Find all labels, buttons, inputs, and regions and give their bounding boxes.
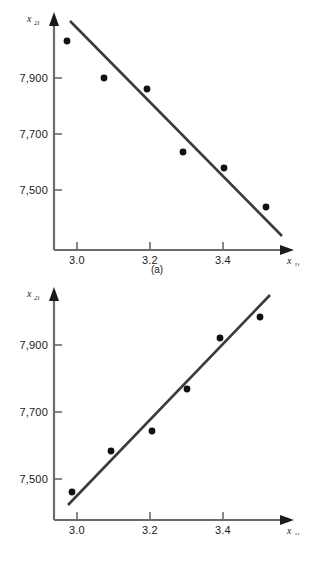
y-axis-label-b: x [26,288,32,299]
data-point-a-5 [221,165,228,172]
y-axis-arrowhead-a [49,12,59,26]
fitted-line-a [70,21,282,236]
chart-panel-b: 7,900 7,700 7,500 3.0 3.2 3.4 x 2i x 1i [0,285,314,569]
data-point-a-6 [263,204,270,211]
data-point-b-6 [257,314,264,321]
data-point-b-5 [217,335,224,342]
y-tick-label-b-1: 7,900 [19,339,48,351]
data-point-a-2 [101,75,108,82]
x-axis-sublabel-b: 1i [294,531,300,535]
y-tick-label-a-2: 7,700 [19,128,48,140]
y-tick-label-a-3: 7,500 [19,184,48,196]
y-axis-label-a: x [26,13,32,24]
y-axis-arrowhead-b [49,287,59,301]
y-axis-sublabel-a: 2i [34,19,40,27]
x-tick-label-b-2: 3.2 [142,524,158,535]
figure-page: 7,900 7,700 7,500 3.0 3.2 3.4 x 2i x 1i [0,0,314,569]
data-point-b-1 [69,489,76,496]
x-axis-arrowhead-b [280,515,294,525]
y-tick-label-b-2: 7,700 [19,406,48,418]
scatter-plot-a: 7,900 7,700 7,500 3.0 3.2 3.4 x 2i x 1i [0,0,314,266]
y-axis-sublabel-b: 2i [34,294,40,302]
x-axis-label-b: x [286,525,292,535]
scatter-plot-b: 7,900 7,700 7,500 3.0 3.2 3.4 x 2i x 1i [0,285,314,535]
fitted-line-b [68,295,270,505]
y-tick-label-b-3: 7,500 [19,473,48,485]
data-point-a-3 [144,86,151,93]
data-point-b-3 [149,428,156,435]
data-point-b-4 [184,386,191,393]
x-tick-label-b-3: 3.4 [215,524,231,535]
panel-caption-a: (a) [0,264,314,275]
data-point-a-4 [180,149,187,156]
y-tick-label-a-1: 7,900 [19,72,48,84]
data-point-a-1 [64,38,71,45]
x-axis-arrowhead-a [280,245,294,255]
data-point-b-2 [108,448,115,455]
chart-panel-a: 7,900 7,700 7,500 3.0 3.2 3.4 x 2i x 1i [0,0,314,285]
x-tick-label-b-1: 3.0 [69,524,85,535]
